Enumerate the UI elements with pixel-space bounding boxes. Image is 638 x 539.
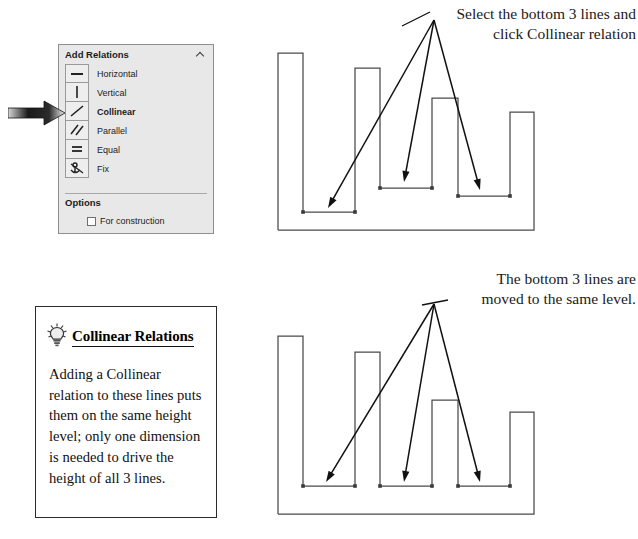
- relations-list: Horizontal Vertical Collinear Parallel: [65, 64, 213, 178]
- relation-item-parallel[interactable]: Parallel: [65, 121, 213, 140]
- right-arrow-pointer: [8, 100, 66, 126]
- tip-body: Adding a Collinear relation to these lin…: [36, 347, 216, 488]
- relation-item-fix[interactable]: Fix: [65, 159, 213, 178]
- sketch-profile-before[interactable]: [278, 53, 534, 230]
- collinear-line-icon[interactable]: [65, 102, 89, 121]
- relation-label-vertical: Vertical: [89, 88, 127, 98]
- relation-label-equal: Equal: [89, 145, 120, 155]
- panel-divider: [65, 193, 207, 194]
- relation-item-collinear[interactable]: Collinear: [65, 102, 213, 121]
- tip-title: Collinear Relations: [72, 329, 194, 347]
- relation-label-fix: Fix: [89, 164, 109, 174]
- relation-item-equal[interactable]: Equal: [65, 140, 213, 159]
- panel-title: Add Relations: [65, 49, 129, 60]
- relation-label-collinear: Collinear: [89, 107, 136, 117]
- sketch-before-collinear[interactable]: [262, 18, 552, 248]
- relation-item-horizontal[interactable]: Horizontal: [65, 64, 213, 83]
- options-header[interactable]: Options: [59, 197, 213, 208]
- for-construction-row[interactable]: For construction: [87, 216, 165, 226]
- equal-sign-icon[interactable]: [65, 140, 89, 159]
- anchor-fix-icon[interactable]: [65, 159, 89, 178]
- sketch-after-collinear[interactable]: [262, 292, 552, 530]
- options-title: Options: [65, 197, 101, 208]
- chevron-up-icon[interactable]: [196, 51, 207, 59]
- for-construction-label: For construction: [100, 216, 165, 226]
- horizontal-line-icon[interactable]: [65, 64, 89, 83]
- relation-label-horizontal: Horizontal: [89, 69, 138, 79]
- add-relations-panel[interactable]: Add Relations Horizontal Vertical Collin…: [58, 44, 214, 234]
- panel-header[interactable]: Add Relations: [59, 45, 213, 63]
- lightbulb-icon: [46, 323, 68, 347]
- for-construction-checkbox[interactable]: [87, 217, 96, 226]
- relation-label-parallel: Parallel: [89, 126, 127, 136]
- relation-item-vertical[interactable]: Vertical: [65, 83, 213, 102]
- parallel-lines-icon[interactable]: [65, 121, 89, 140]
- sketch-profile-after[interactable]: [278, 336, 534, 514]
- vertical-line-icon[interactable]: [65, 83, 89, 102]
- tip-title-row: Collinear Relations: [36, 307, 216, 347]
- tip-box: Collinear Relations Adding a Collinear r…: [35, 306, 217, 518]
